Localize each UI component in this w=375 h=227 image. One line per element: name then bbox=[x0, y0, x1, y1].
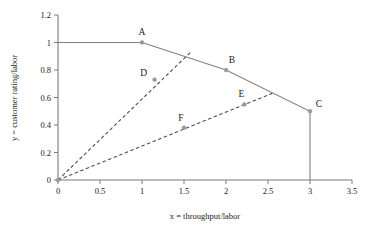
x-tick-label: 2.5 bbox=[263, 186, 274, 196]
x-tick-label: 0 bbox=[56, 186, 60, 196]
x-axis-title: x = throughput/labor bbox=[170, 211, 241, 221]
series-ray-through-F-and-E bbox=[58, 93, 272, 180]
y-tick-label: 0 bbox=[47, 175, 51, 185]
data-points-group: ABCDEF bbox=[56, 27, 322, 182]
point-label-e: E bbox=[239, 89, 245, 99]
x-tick-label: 0.5 bbox=[95, 186, 106, 196]
chart-container: 00.511.522.533.5 00.20.40.60.811.2 ABCDE… bbox=[0, 0, 375, 227]
data-point-marker-b bbox=[224, 68, 228, 72]
series-ray-through-D bbox=[58, 52, 191, 180]
point-label-f: F bbox=[178, 113, 183, 123]
data-series-group bbox=[58, 43, 310, 181]
efficiency-frontier-chart: 00.511.522.533.5 00.20.40.60.811.2 ABCDE… bbox=[0, 0, 375, 227]
x-tick-label: 1 bbox=[140, 186, 144, 196]
y-tick-label: 1 bbox=[47, 38, 51, 48]
data-point-marker-e bbox=[243, 102, 247, 106]
y-tick-label: 0.2 bbox=[40, 148, 51, 158]
x-tick-label: 3.5 bbox=[347, 186, 358, 196]
point-label-b: B bbox=[229, 55, 235, 65]
point-label-c: C bbox=[316, 99, 322, 109]
x-tick-label: 3 bbox=[308, 186, 312, 196]
x-tick-label: 2 bbox=[224, 186, 228, 196]
data-point-marker-c bbox=[308, 109, 312, 113]
y-tick-label: 1.2 bbox=[40, 10, 51, 20]
y-tick-label: 0.8 bbox=[40, 65, 51, 75]
axes-group bbox=[58, 15, 352, 180]
y-tick-label: 0.6 bbox=[40, 93, 51, 103]
y-axis-ticks: 00.20.40.60.811.2 bbox=[40, 10, 58, 185]
series-efficient-frontier bbox=[58, 43, 310, 181]
y-axis-title: y = customer rating/labor bbox=[9, 55, 19, 141]
data-point-marker-origin bbox=[56, 178, 60, 182]
data-point-marker-f bbox=[182, 126, 186, 130]
data-point-marker-a bbox=[140, 41, 144, 45]
y-tick-label: 0.4 bbox=[40, 120, 51, 130]
data-point-marker-d bbox=[153, 78, 157, 82]
x-tick-label: 1.5 bbox=[179, 186, 190, 196]
x-axis-ticks: 00.511.522.533.5 bbox=[56, 180, 357, 196]
point-label-a: A bbox=[139, 27, 146, 37]
point-label-d: D bbox=[140, 68, 147, 78]
